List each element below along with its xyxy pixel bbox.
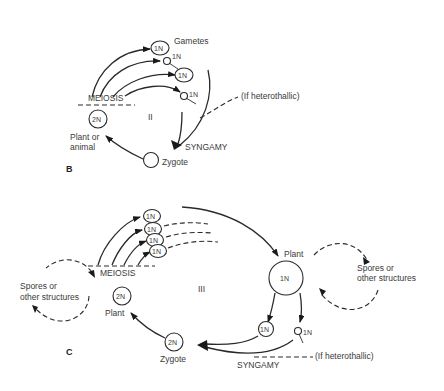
syngamy-label: SYNGAMY: [185, 142, 228, 152]
organism-label-line2: animal: [70, 142, 95, 152]
svg-text:1N: 1N: [149, 237, 158, 244]
diploid-plant: 2N: [113, 287, 131, 305]
syngamy-arrowhead: [197, 340, 208, 351]
haploid-plant-ploidy: 1N: [280, 275, 289, 282]
gamete-to-syngamy: [205, 336, 258, 344]
life-cycle-diagram: 1N 1N 1N 1N Gametes MEIOSIS II 2N Plant …: [0, 0, 444, 391]
cycle-number: III: [198, 284, 205, 294]
zygote-label: Zygote: [162, 157, 188, 167]
cycle-number: II: [148, 112, 153, 122]
meiosis-arrow: [124, 241, 146, 265]
diploid-organism: 2N: [89, 110, 107, 128]
svg-text:2N: 2N: [168, 339, 177, 346]
gamete-sperm: 1N: [181, 91, 198, 104]
svg-text:2N: 2N: [92, 116, 101, 123]
diagram-b: 1N 1N 1N 1N Gametes MEIOSIS II 2N Plant …: [66, 36, 300, 174]
zygote-circle: [144, 153, 159, 168]
meiosis-arrow: [125, 86, 180, 96]
zygote-to-organism-arrow: [106, 136, 143, 159]
spore-dashed-path: [168, 241, 218, 248]
left-loop-arrowhead: [32, 305, 38, 313]
panel-label-c: C: [66, 347, 73, 357]
gamete-to-syngamy: [178, 112, 182, 144]
meiosis-label: MEIOSIS: [100, 268, 136, 278]
right-loop-label-line1: Spores or: [357, 263, 394, 273]
syngamy-arrowhead: [171, 140, 182, 150]
gamete-egg: 1N: [151, 41, 169, 55]
heterothallic-label: (If heterothallic): [241, 91, 300, 101]
right-loop-label-line2: other structures: [357, 273, 416, 283]
svg-text:1N: 1N: [146, 213, 155, 220]
left-loop-top: [46, 260, 92, 272]
gamete-to-syngamy: [205, 340, 293, 353]
haploid-plant-label: Plant: [284, 249, 304, 259]
gamete-egg: 1N: [259, 322, 274, 337]
spore: 1N: [150, 245, 167, 258]
svg-text:1N: 1N: [172, 53, 181, 60]
svg-text:1N: 1N: [154, 45, 163, 52]
plant-to-sperm-arrow: [300, 293, 302, 322]
svg-text:2N: 2N: [116, 293, 125, 300]
zygote-label: Zygote: [160, 354, 186, 364]
meiosis-label: MEIOSIS: [88, 93, 124, 103]
gamete-sperm: 1N: [295, 328, 312, 344]
left-loop-arrowhead: [88, 270, 95, 278]
spore: 1N: [144, 210, 161, 223]
plant-to-egg-arrow: [268, 293, 275, 322]
spore-dashed-path: [166, 232, 212, 237]
zygote: 2N: [165, 333, 183, 351]
panel-label-b: B: [66, 164, 73, 174]
svg-text:1N: 1N: [260, 326, 269, 333]
right-loop-bottom: [322, 290, 378, 309]
svg-text:1N: 1N: [178, 72, 187, 79]
svg-text:1N: 1N: [152, 248, 161, 255]
left-loop-label-line2: other structures: [20, 292, 79, 302]
spore-dashed-path: [164, 223, 208, 226]
organism-label-line1: Plant or: [70, 132, 99, 142]
heterothallic-label: (If heterothallic): [315, 351, 374, 361]
right-loop-arrowhead: [319, 288, 326, 296]
gamete-sperm: 1N: [164, 53, 181, 69]
svg-text:1N: 1N: [303, 329, 312, 336]
svg-text:1N: 1N: [189, 91, 198, 98]
gametes-label: Gametes: [174, 36, 209, 46]
syngamy-label: SYNGAMY: [237, 360, 280, 370]
gamete-egg: 1N: [175, 68, 193, 82]
zygote-to-plant-arrow: [131, 313, 165, 338]
svg-text:1N: 1N: [147, 226, 156, 233]
meiosis-arrow: [138, 252, 150, 265]
spore-to-plant-arrow: [182, 207, 278, 256]
right-loop-top: [314, 244, 367, 260]
left-loop-label-line1: Spores or: [20, 281, 57, 291]
meiosis-arrow: [98, 217, 140, 265]
diploid-plant-label: Plant: [105, 308, 125, 318]
diagram-c: 1N 1N 1N 1N MEIOSIS Spores or other stru…: [20, 207, 416, 370]
